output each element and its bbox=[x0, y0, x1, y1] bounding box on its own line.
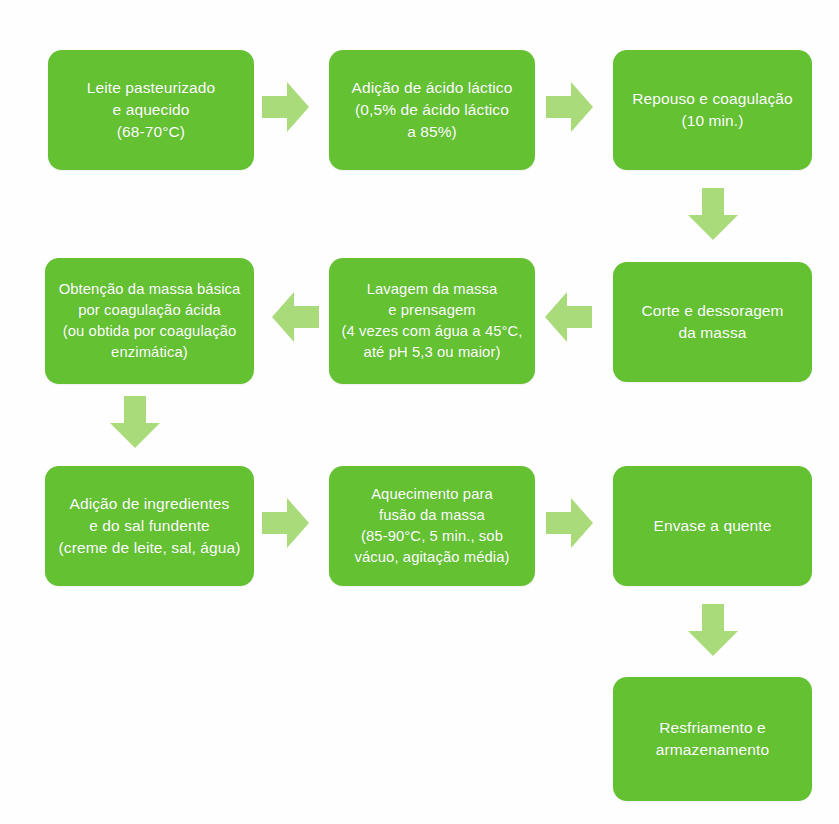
process-node-label: Corte e dessoragem da massa bbox=[641, 300, 783, 344]
flowchart-diagram: Leite pasteurizado e aquecido (68-70°C) … bbox=[0, 0, 839, 824]
process-node-aquecimento-fusao[interactable]: Aquecimento para fusão da massa (85-90°C… bbox=[329, 466, 535, 586]
process-node-label: Lavagem da massa e prensagem (4 vezes co… bbox=[341, 279, 522, 363]
arrow-right-icon bbox=[546, 82, 593, 132]
arrow-right-icon bbox=[546, 498, 593, 548]
process-node-label: Resfriamento e armazenamento bbox=[656, 717, 769, 761]
arrow-right-icon bbox=[262, 498, 309, 548]
process-node-obtencao-massa-basica[interactable]: Obtenção da massa básica por coagulação … bbox=[45, 258, 254, 384]
process-node-repouso-coagulacao[interactable]: Repouso e coagulação (10 min.) bbox=[613, 50, 812, 170]
process-node-leite-pasteurizado[interactable]: Leite pasteurizado e aquecido (68-70°C) bbox=[48, 50, 254, 170]
process-node-resfriamento-armazenamento[interactable]: Resfriamento e armazenamento bbox=[613, 677, 812, 801]
process-node-label: Adição de ingredientes e do sal fundente… bbox=[59, 493, 241, 559]
process-node-envase-quente[interactable]: Envase a quente bbox=[613, 466, 812, 586]
process-node-label: Leite pasteurizado e aquecido (68-70°C) bbox=[87, 77, 215, 143]
process-node-label: Adição de ácido láctico (0,5% de ácido l… bbox=[352, 77, 513, 143]
process-node-adicao-ingredientes[interactable]: Adição de ingredientes e do sal fundente… bbox=[45, 466, 254, 586]
arrow-down-icon bbox=[688, 604, 738, 656]
arrow-left-icon bbox=[272, 292, 319, 342]
process-node-lavagem-prensagem[interactable]: Lavagem da massa e prensagem (4 vezes co… bbox=[329, 258, 535, 384]
arrow-down-icon bbox=[688, 188, 738, 240]
process-node-label: Aquecimento para fusão da massa (85-90°C… bbox=[354, 484, 509, 568]
process-node-label: Repouso e coagulação (10 min.) bbox=[632, 88, 793, 132]
process-node-adicao-acido-lactico[interactable]: Adição de ácido láctico (0,5% de ácido l… bbox=[329, 50, 535, 170]
arrow-left-icon bbox=[545, 292, 592, 342]
process-node-label: Envase a quente bbox=[654, 515, 772, 537]
process-node-label: Obtenção da massa básica por coagulação … bbox=[59, 279, 241, 363]
arrow-down-icon bbox=[110, 396, 160, 448]
process-node-corte-dessoragem[interactable]: Corte e dessoragem da massa bbox=[613, 262, 812, 382]
arrow-right-icon bbox=[262, 82, 309, 132]
